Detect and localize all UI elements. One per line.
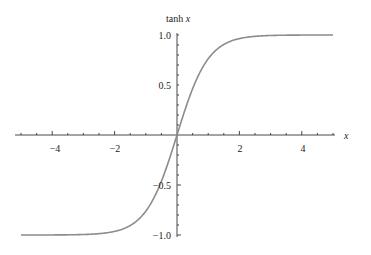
tanh-plot: tanh x x −4 −2 2 4 1.0 0.5 −0.5 −1.0: [0, 0, 371, 255]
x-tick-label: −2: [110, 143, 121, 154]
y-tick-label: 0.5: [159, 80, 172, 91]
y-tick-label: −0.5: [153, 180, 171, 191]
y-tick-label: 1.0: [159, 30, 172, 41]
x-tick-label: 4: [301, 143, 306, 154]
x-axis-label: x: [343, 130, 349, 141]
y-tick-label: −1.0: [153, 230, 171, 241]
x-tick-label: −4: [50, 143, 61, 154]
axes: [15, 33, 335, 237]
x-tick-label: 2: [238, 143, 243, 154]
y-axis-label: tanh x: [166, 13, 191, 24]
